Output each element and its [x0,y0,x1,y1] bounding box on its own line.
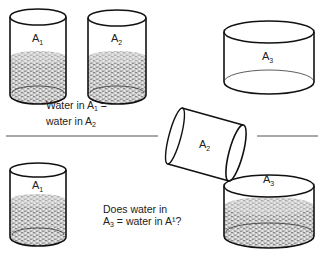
container-a2-top: A2 [88,10,146,104]
container-label: A3 [262,50,273,64]
container-a1-bottom: A1 [10,163,66,246]
rim [224,21,314,43]
water-fill [88,57,146,104]
container-label: A1 [32,179,43,193]
water-fill [10,57,66,104]
rim [224,186,314,197]
container-label: A1 [32,32,43,46]
container-label: A2 [111,32,122,46]
container-a3-bottom: A3 [224,173,314,248]
rim [10,163,66,177]
container-a3-top: A3 [224,21,314,94]
water-fill [10,200,66,246]
caption-bottom-line2: A3 = water in A¹? [103,215,181,231]
container-a2-tilted: A2 [162,106,251,182]
caption-top: Water in A1 = water in A2 [46,99,107,131]
container-a1-top: A1 [10,9,66,104]
caption-bottom-line1: Does water in [103,203,181,215]
rim [10,9,66,25]
caption-top-line1: Water in A1 = [46,99,107,115]
rim [88,10,146,26]
caption-top-line2: water in A2 [46,115,107,131]
caption-bottom: Does water in A3 = water in A¹? [103,203,181,231]
